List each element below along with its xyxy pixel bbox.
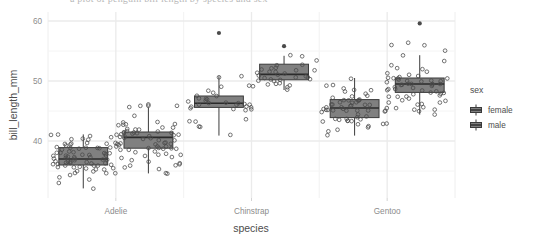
- legend-title: sex: [470, 85, 484, 95]
- legend-items[interactable]: femalemale: [470, 104, 513, 131]
- outlier-point: [282, 44, 286, 48]
- x-axis-tick-labels: AdelieChinstrapGentoo: [104, 207, 401, 216]
- legend-label-female: female: [488, 106, 513, 115]
- boxplot-svg: 605040 AdelieChinstrapGentoo bill_length…: [0, 0, 537, 238]
- legend-label-male: male: [488, 121, 506, 130]
- y-tick-label: 40: [33, 137, 43, 146]
- x-axis-title: species: [233, 222, 269, 234]
- x-tick-label-gentoo: Gentoo: [374, 207, 401, 216]
- outlier-point: [418, 21, 422, 25]
- y-axis-tick-labels: 605040: [33, 17, 43, 146]
- legend-item-female[interactable]: female: [470, 104, 513, 116]
- y-tick-label: 50: [33, 77, 43, 86]
- x-tick-label-adelie: Adelie: [104, 207, 127, 216]
- clipped-caption-text: a plot of penguin bill length by species…: [70, 0, 268, 4]
- chart-figure: a plot of penguin bill length by species…: [0, 0, 537, 238]
- legend[interactable]: sex femalemale: [470, 85, 513, 131]
- x-tick-label-chinstrap: Chinstrap: [234, 207, 269, 216]
- x-axis-tick-marks: [116, 198, 387, 201]
- outlier-point: [217, 31, 221, 35]
- y-axis-title: bill_length_mm: [7, 69, 19, 140]
- y-tick-label: 60: [33, 17, 43, 26]
- legend-item-male[interactable]: male: [470, 119, 506, 131]
